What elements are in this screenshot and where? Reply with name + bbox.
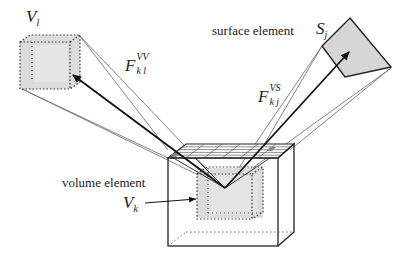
label-v-l: Vl	[26, 8, 39, 25]
surface-element-j	[322, 18, 391, 77]
label-f-vv: F VV k l	[125, 57, 159, 74]
label-s-j: Sj	[316, 20, 327, 37]
label-v-k: Vk	[123, 194, 138, 211]
arrow-f-vs	[225, 52, 349, 188]
volume-element-l	[20, 35, 80, 89]
label-surface-element: surface element	[212, 24, 294, 37]
diagram-canvas	[0, 0, 409, 260]
arrow-f-vv	[73, 75, 225, 188]
view-factor-diagram: Vl F VV k l surface element Sj F VS k j …	[0, 0, 409, 260]
arrow-volume-element-pointer	[145, 199, 196, 203]
label-volume-element: volume element	[62, 176, 145, 189]
label-f-vs: F VS k j	[258, 88, 292, 105]
